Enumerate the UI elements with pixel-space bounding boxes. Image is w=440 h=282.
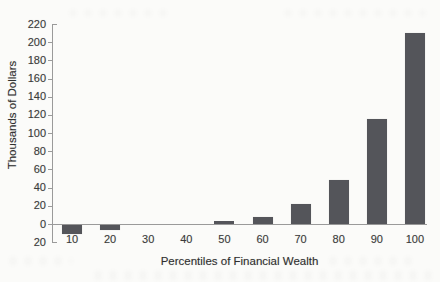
y-tick-label: 140 xyxy=(14,90,46,103)
x-tick-label: 80 xyxy=(320,233,358,246)
y-tick-mark xyxy=(48,133,52,134)
y-tick-mark xyxy=(48,115,52,116)
y-tick-mark xyxy=(48,224,52,225)
y-tick-mark xyxy=(48,60,52,61)
x-tick-label: 100 xyxy=(396,233,434,246)
y-tick-mark xyxy=(48,206,52,207)
y-tick-label: 220 xyxy=(14,18,46,31)
bar xyxy=(329,180,349,224)
x-tick-label: 90 xyxy=(358,233,396,246)
y-tick-label: 20 xyxy=(14,236,46,249)
y-tick-mark xyxy=(48,188,52,189)
y-tick-mark xyxy=(48,169,52,170)
bar xyxy=(405,33,425,224)
x-tick-label: 70 xyxy=(282,233,320,246)
y-tick-label: 20 xyxy=(14,199,46,212)
x-tick-label: 20 xyxy=(91,233,129,246)
y-tick-label: 200 xyxy=(14,36,46,49)
x-tick-label: 60 xyxy=(244,233,282,246)
scan-artifact xyxy=(285,10,425,16)
bar xyxy=(100,225,120,230)
x-axis-title: Percentiles of Financial Wealth xyxy=(52,255,427,267)
y-tick-label: 100 xyxy=(14,127,46,140)
y-tick-label: 80 xyxy=(14,145,46,158)
y-tick-label: 180 xyxy=(14,54,46,67)
bar xyxy=(291,204,311,224)
y-tick-mark xyxy=(48,79,52,80)
y-axis-line xyxy=(52,24,53,242)
x-tick-label: 30 xyxy=(129,233,167,246)
y-tick-label: 40 xyxy=(14,181,46,194)
y-tick-mark xyxy=(48,97,52,98)
y-axis-top-end-tick xyxy=(52,24,57,25)
x-tick-label: 50 xyxy=(205,233,243,246)
x-tick-label: 10 xyxy=(53,233,91,246)
x-tick-label: 40 xyxy=(167,233,205,246)
y-tick-label: 0 xyxy=(14,218,46,231)
y-tick-mark xyxy=(48,151,52,152)
financial-wealth-bar-chart: Thousands of Dollars Percentiles of Fina… xyxy=(0,0,440,282)
scan-artifact xyxy=(70,10,170,16)
bar xyxy=(253,217,273,224)
bar xyxy=(214,221,234,224)
y-tick-label: 160 xyxy=(14,72,46,85)
scan-artifact xyxy=(95,271,435,280)
bar xyxy=(367,119,387,224)
y-tick-label: 120 xyxy=(14,108,46,121)
y-tick-label: 60 xyxy=(14,163,46,176)
y-tick-mark xyxy=(48,42,52,43)
